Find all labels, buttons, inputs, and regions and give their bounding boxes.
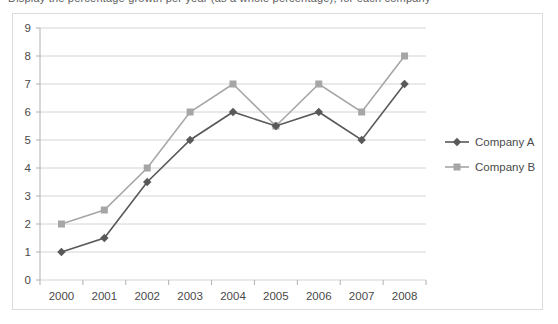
data-point-marker — [187, 109, 194, 116]
x-axis-tick-label: 2005 — [263, 290, 289, 302]
data-point-marker — [315, 81, 322, 88]
x-axis-tick-label: 2002 — [134, 290, 160, 302]
x-axis-tick-label: 2008 — [392, 290, 418, 302]
data-point-marker — [101, 207, 108, 214]
y-axis-tick-label: 5 — [25, 134, 31, 146]
x-axis-tick-label: 2006 — [306, 290, 332, 302]
truncated-header-text: Display the percentage growth per year (… — [0, 0, 558, 9]
y-axis-tick-label: 3 — [25, 190, 31, 202]
y-axis-tick-label: 1 — [25, 246, 31, 258]
x-axis-tick-label: 2003 — [177, 290, 203, 302]
y-axis-tick-label: 8 — [25, 50, 31, 62]
data-point-marker — [57, 248, 65, 256]
gridlines-group — [40, 28, 426, 280]
data-point-marker — [315, 108, 323, 116]
y-axis-tick-label: 4 — [25, 162, 32, 174]
line-chart: 0123456789 20002001200220032004200520062… — [13, 14, 542, 309]
y-axis-tick-label: 9 — [25, 22, 31, 34]
x-axis-tick-label: 2007 — [349, 290, 375, 302]
data-point-marker — [453, 138, 461, 146]
data-point-marker — [58, 221, 65, 228]
chart-container: 0123456789 20002001200220032004200520062… — [12, 13, 543, 310]
legend-label: Company B — [475, 161, 535, 173]
y-axis-labels: 0123456789 — [25, 22, 32, 286]
data-point-marker — [358, 109, 365, 116]
legend-item-company-a[interactable]: Company A — [445, 136, 535, 148]
data-point-marker — [401, 53, 408, 60]
y-axis-tick-label: 0 — [25, 274, 31, 286]
x-axis-tick-label: 2001 — [92, 290, 118, 302]
y-axis-tick-label: 2 — [25, 218, 31, 230]
y-axis-tick-label: 6 — [25, 106, 31, 118]
data-point-marker — [454, 164, 461, 171]
x-axis-tick-label: 2000 — [49, 290, 75, 302]
data-point-marker — [229, 108, 237, 116]
x-axis-labels: 200020012002200320042005200620072008 — [49, 290, 418, 302]
chart-legend: Company ACompany B — [445, 136, 535, 173]
data-point-marker — [144, 165, 151, 172]
data-point-marker — [230, 81, 237, 88]
truncated-header-text-content: Display the percentage growth per year (… — [8, 0, 431, 4]
x-axis-tick-label: 2004 — [220, 290, 246, 302]
legend-item-company-b[interactable]: Company B — [445, 161, 535, 173]
legend-label: Company A — [475, 136, 535, 148]
y-axis-tick-marks — [36, 28, 40, 280]
data-series-group — [57, 53, 409, 257]
y-axis-tick-label: 7 — [25, 78, 31, 90]
x-axis-tick-marks — [40, 280, 426, 285]
